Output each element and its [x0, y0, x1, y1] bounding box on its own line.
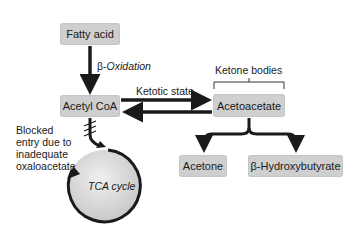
- ketotic-state-label: Ketotic state: [136, 85, 194, 97]
- node-hydroxybutyrate: β-Hydroxybutyrate: [248, 155, 343, 177]
- blocked-line-2: entry due to: [16, 136, 76, 148]
- node-fatty-acid: Fatty acid: [60, 23, 120, 45]
- node-acetoacetate: Acetoacetate: [213, 94, 285, 117]
- ketone-bodies-label: Ketone bodies: [215, 64, 282, 76]
- ketone-bodies-bracket: [214, 78, 284, 89]
- block-marks-icon: [84, 121, 96, 136]
- to-hydroxybutyrate-arrow: [249, 128, 296, 147]
- blocked-line-1: Blocked: [16, 124, 76, 136]
- node-acetyl-coa: Acetyl CoA: [60, 95, 120, 117]
- diagram-arrows: [0, 0, 360, 237]
- blocked-line-4: oxaloacetate: [16, 160, 76, 172]
- blocked-entry-label: Blocked entry due to inadequate oxaloace…: [16, 124, 76, 172]
- tca-cycle-label: TCA cycle: [88, 180, 135, 192]
- blocked-line-3: inadequate: [16, 148, 76, 160]
- beta-oxidation-label: β-Oxidation: [97, 60, 151, 72]
- to-acetone-arrow: [204, 118, 249, 147]
- node-acetone: Acetone: [179, 155, 227, 177]
